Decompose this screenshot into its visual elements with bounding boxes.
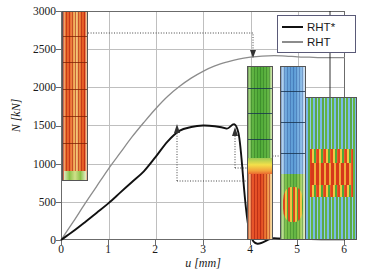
gridline-vertical: [156, 12, 157, 239]
chart-figure: 3000 2500 2000 1500 1000 500 0 N [kN] 0 …: [0, 0, 365, 277]
thumbnail-rht-failure-detail-zoom[interactable]: [305, 97, 357, 240]
thumbnail-initial-damage-state[interactable]: [62, 11, 88, 181]
base-region: [64, 171, 86, 180]
x-tick-label: 4: [238, 243, 262, 255]
legend-entry-rht[interactable]: RHT: [282, 34, 351, 49]
band-line: [248, 113, 272, 114]
legend-label-rht-star: RHT*: [307, 21, 335, 33]
contour-fill-upper: [248, 67, 272, 165]
x-tick-label: 5: [285, 243, 309, 255]
x-tick-label: 3: [191, 243, 215, 255]
gridline-vertical: [203, 12, 204, 239]
contour-fill: [63, 12, 87, 180]
thumbnail-rht-star-failure-state[interactable]: [247, 66, 273, 240]
band-line: [248, 139, 272, 140]
y-tick-label: 3000: [4, 6, 56, 17]
legend-swatch-rht-star: [282, 26, 303, 28]
band-line: [63, 116, 87, 117]
contour-fill-upper: [281, 67, 305, 174]
band-line: [63, 62, 87, 63]
thumbnail-rht-failure-state[interactable]: [280, 66, 306, 240]
x-axis-title: u [mm]: [61, 256, 345, 271]
legend-swatch-rht: [282, 41, 303, 43]
band-line: [248, 88, 272, 89]
band-line: [281, 122, 305, 123]
contour-fill-lower: [248, 174, 272, 239]
x-tick-label: 6: [332, 243, 356, 255]
x-tick-label: 1: [96, 243, 120, 255]
legend[interactable]: RHT* RHT: [277, 15, 356, 53]
x-tick-label: 2: [143, 243, 167, 255]
y-axis-title: N [kN]: [9, 86, 24, 146]
legend-entry-rht-star[interactable]: RHT*: [282, 19, 351, 34]
band-line: [281, 153, 305, 154]
x-tick-label: 0: [49, 243, 73, 255]
band-line: [63, 143, 87, 144]
band-line: [63, 36, 87, 37]
y-tick-label: 500: [4, 197, 56, 208]
legend-label-rht: RHT: [307, 36, 331, 48]
crush-zone: [283, 187, 303, 221]
y-tick-label: 2500: [4, 44, 56, 55]
band-line: [281, 91, 305, 92]
crush-core-detail: [311, 163, 351, 186]
gridline-vertical: [109, 12, 110, 239]
y-tick-label: 1000: [4, 159, 56, 170]
band-line: [63, 89, 87, 90]
